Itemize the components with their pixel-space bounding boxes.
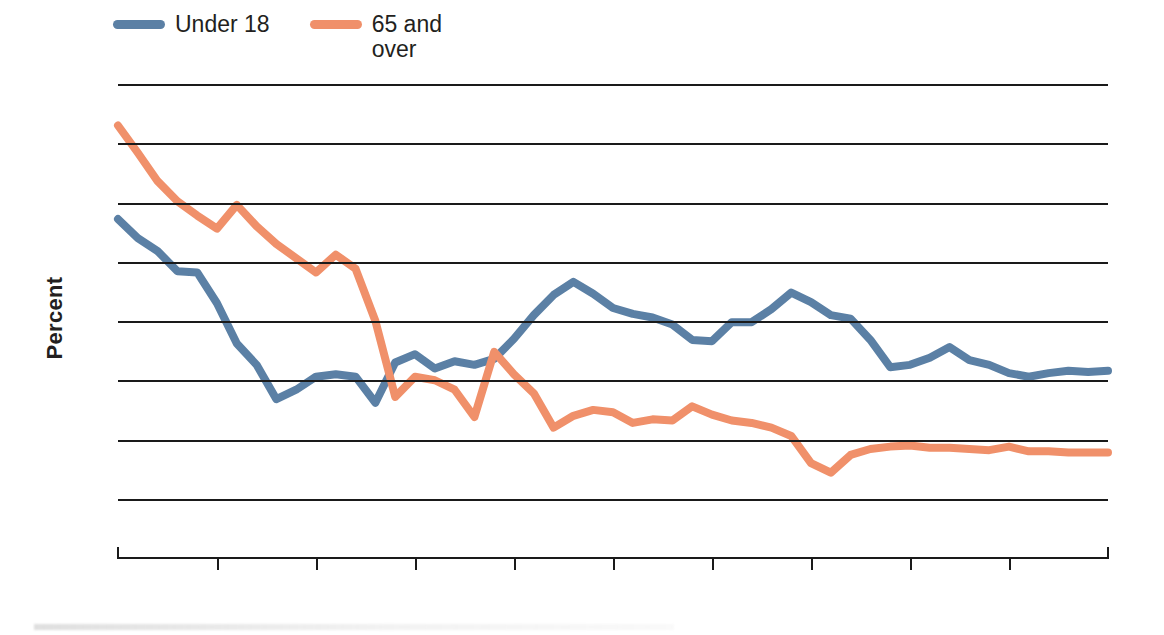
plot-area: 0510152025303540196019651970197519801985… bbox=[118, 84, 1108, 558]
gridline-5 bbox=[118, 499, 1108, 501]
gridline-25 bbox=[118, 262, 1108, 264]
chart-legend: Under 18 65 and over bbox=[113, 12, 442, 62]
legend-item-65-and-over: 65 and over bbox=[310, 12, 442, 62]
legend-item-under-18: Under 18 bbox=[113, 12, 270, 37]
gridline-20 bbox=[118, 321, 1108, 323]
x-tick-1965 bbox=[217, 558, 219, 570]
series-line-under-18 bbox=[118, 219, 1108, 403]
x-tick-1975 bbox=[415, 558, 417, 570]
x-tick-1985 bbox=[613, 558, 615, 570]
legend-label-65-and-over: 65 and over bbox=[372, 12, 442, 62]
legend-swatch-under-18 bbox=[113, 20, 165, 29]
x-tick-1990 bbox=[712, 558, 714, 570]
x-tick-1980 bbox=[514, 558, 516, 570]
x-tick-1995 bbox=[811, 558, 813, 570]
chart-container: Under 18 65 and over Percent 05101520253… bbox=[0, 0, 1164, 635]
gridline-35 bbox=[118, 143, 1108, 145]
x-tick-2005 bbox=[1009, 558, 1011, 570]
series-line-65-and-over bbox=[118, 125, 1108, 472]
gridline-15 bbox=[118, 380, 1108, 382]
gridline-40 bbox=[118, 84, 1108, 86]
gridline-10 bbox=[118, 440, 1108, 442]
gridline-30 bbox=[118, 203, 1108, 205]
legend-label-under-18: Under 18 bbox=[175, 12, 270, 37]
cropped-caption-remnant bbox=[34, 624, 674, 630]
legend-swatch-65-and-over bbox=[310, 20, 362, 29]
y-axis-title: Percent bbox=[42, 276, 67, 359]
x-tick-2000 bbox=[910, 558, 912, 570]
x-tick-1970 bbox=[316, 558, 318, 570]
y-axis-title-wrap: Percent bbox=[42, 276, 68, 359]
